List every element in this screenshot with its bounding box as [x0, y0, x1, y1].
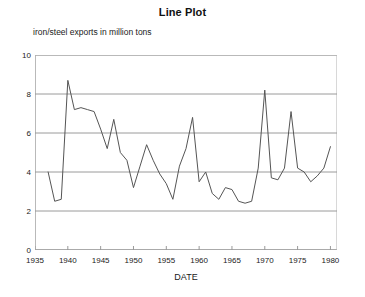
- y-axis-caption: iron/steel exports in million tons: [33, 27, 152, 37]
- gridlines: [35, 55, 337, 250]
- y-tick-label: 8: [5, 90, 31, 99]
- chart-title: Line Plot: [0, 6, 365, 18]
- line-plot-figure: Line Plot iron/steel exports in million …: [0, 0, 365, 297]
- data-line: [48, 80, 330, 203]
- x-axis-tick-labels: 1935194019451950195519601965197019751980: [35, 256, 337, 270]
- y-tick-label: 10: [5, 51, 31, 60]
- data-series-group: [48, 80, 330, 203]
- plot-area: [35, 55, 337, 250]
- y-tick-label: 2: [5, 207, 31, 216]
- y-tick-label: 6: [5, 129, 31, 138]
- y-tick-label: 4: [5, 168, 31, 177]
- y-tick-label: 0: [5, 246, 31, 255]
- y-axis-tick-labels: 0246810: [0, 55, 31, 250]
- x-tick-label: 1980: [310, 256, 350, 265]
- x-axis-label: DATE: [35, 272, 337, 282]
